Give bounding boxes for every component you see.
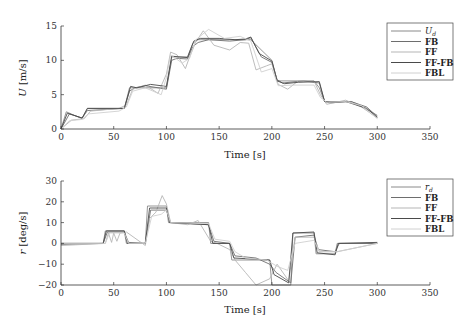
- y-tick-label: 5: [51, 90, 57, 100]
- legend-entry-label: FF-FB: [425, 58, 453, 68]
- yaw-rate-y-ticks: −20−100102030: [38, 176, 64, 290]
- yaw-rate-legend: rdFBFFFF-FBFBL: [387, 179, 453, 236]
- y-tick-label: 10: [46, 218, 58, 228]
- legend-entry-label: FBL: [425, 224, 444, 234]
- x-tick-label: 0: [58, 132, 64, 142]
- series-line-ff: [61, 196, 377, 285]
- series-line-fb: [61, 38, 377, 129]
- series-line-u-d: [61, 40, 377, 129]
- x-tick-label: 100: [158, 288, 175, 298]
- x-tick-label: 200: [263, 288, 280, 298]
- y-tick-label: 30: [46, 176, 58, 186]
- series-line-fb: [61, 210, 377, 283]
- speed-plot: 050100150200250300350 051015 Time [s] U …: [17, 21, 453, 160]
- x-tick-label: 200: [263, 132, 280, 142]
- series-line-fbl: [61, 210, 377, 270]
- x-tick-label: 50: [108, 288, 120, 298]
- speed-x-ticks: 050100150200250300350: [58, 126, 439, 142]
- legend-entry-label: FF: [425, 47, 437, 57]
- yaw-rate-x-ticks: 050100150200250300350: [58, 282, 439, 298]
- x-tick-label: 300: [369, 288, 386, 298]
- x-tick-label: 50: [108, 132, 120, 142]
- x-tick-label: 250: [316, 288, 333, 298]
- speed-y-axis-label: U [m/s]: [17, 59, 28, 97]
- speed-x-axis-label: Time [s]: [224, 149, 265, 160]
- x-tick-label: 100: [158, 132, 175, 142]
- x-tick-label: 150: [211, 288, 228, 298]
- legend-entry-label: FB: [425, 37, 438, 47]
- yaw-rate-x-axis-label: Time [s]: [224, 304, 265, 315]
- figure: 050100150200250300350 051015 Time [s] U …: [0, 0, 475, 329]
- legend-entry-label: FB: [425, 193, 438, 203]
- y-tick-label: 10: [46, 55, 58, 65]
- x-tick-label: 250: [316, 132, 333, 142]
- x-tick-label: 350: [421, 288, 438, 298]
- legend-entry-label: FF-FB: [425, 214, 453, 224]
- yaw-rate-plot: 050100150200250300350 −20−100102030 Time…: [17, 176, 453, 315]
- yaw-rate-y-axis-label: r [deg/s]: [17, 211, 28, 254]
- series-line-ff-fb: [61, 208, 377, 283]
- y-tick-label: −20: [38, 280, 57, 290]
- speed-legend: UdFBFFFF-FBFBL: [387, 23, 453, 80]
- series-line-ff: [61, 31, 377, 129]
- y-tick-label: 0: [51, 124, 57, 134]
- legend-entry-label: FBL: [425, 68, 444, 78]
- x-tick-label: 300: [369, 132, 386, 142]
- y-tick-label: −10: [38, 259, 57, 269]
- yaw-rate-series-lines: [61, 196, 377, 285]
- x-tick-label: 0: [58, 288, 64, 298]
- y-tick-label: 20: [46, 197, 58, 207]
- series-line-fbl: [61, 29, 377, 129]
- series-line-r-d: [61, 206, 377, 285]
- y-tick-label: 15: [46, 21, 58, 31]
- legend-entry-label: FF: [425, 203, 437, 213]
- x-tick-label: 150: [211, 132, 228, 142]
- speed-series-lines: [61, 29, 377, 129]
- series-line-ff-fb: [61, 37, 377, 129]
- x-tick-label: 350: [421, 132, 438, 142]
- y-tick-label: 0: [51, 238, 57, 248]
